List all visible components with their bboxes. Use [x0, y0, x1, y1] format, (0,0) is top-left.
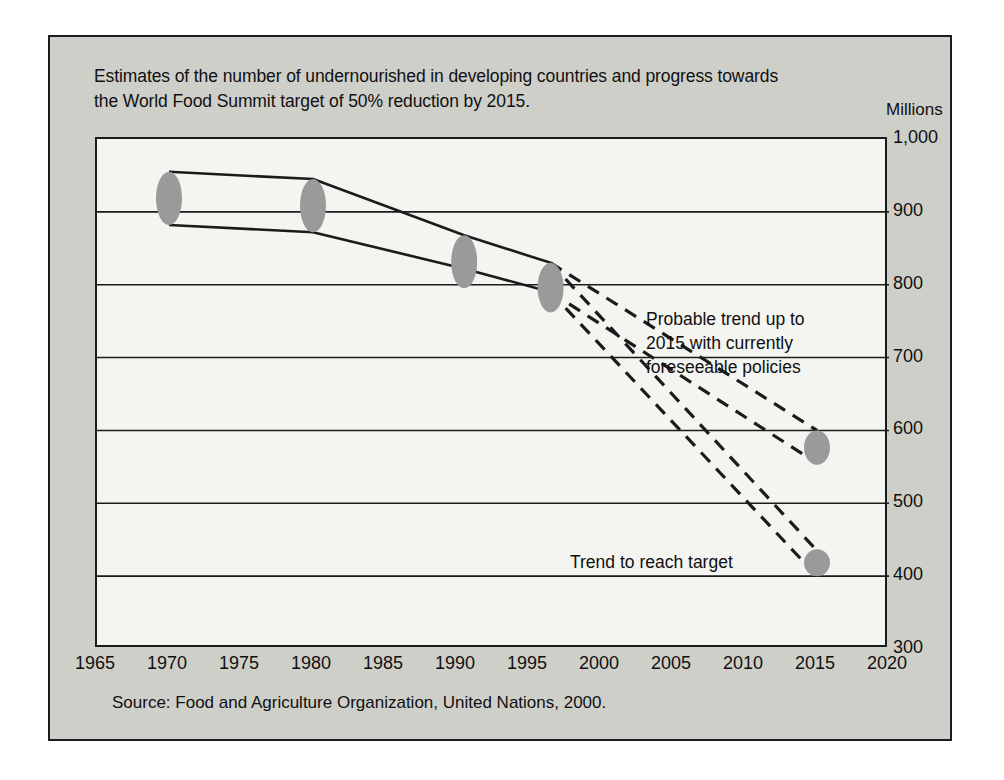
annotation-target-line-1: Trend to reach target [570, 550, 733, 574]
source-note: Source: Food and Agriculture Organizatio… [112, 693, 606, 713]
x-tick-1990: 1990 [435, 653, 475, 674]
marker-target-2015 [804, 549, 830, 576]
marker-probable-2015 [804, 430, 830, 464]
chart-page: Estimates of the number of undernourishe… [0, 0, 1004, 780]
estimate-band-lines [169, 172, 551, 292]
annotation-trend-to-target: Trend to reach target [570, 550, 733, 574]
x-tick-1980: 1980 [291, 653, 331, 674]
x-tick-1965: 1965 [75, 653, 115, 674]
x-tick-2005: 2005 [651, 653, 691, 674]
marker-estimate-1970 [156, 172, 182, 225]
chart-title: Estimates of the number of undernourishe… [94, 64, 894, 114]
chart-title-line-1: Estimates of the number of undernourishe… [94, 64, 894, 89]
annotation-probable-line-1: Probable trend up to [646, 307, 805, 331]
plot-graphics [97, 139, 889, 649]
y-tick-800: 800 [893, 272, 923, 293]
marker-estimate-1996 [538, 263, 564, 313]
x-tick-2010: 2010 [723, 653, 763, 674]
y-tick-400: 400 [893, 564, 923, 585]
y-tick-700: 700 [893, 345, 923, 366]
annotation-probable-trend: Probable trend up to 2015 with currently… [646, 307, 805, 379]
marker-estimate-1990 [451, 235, 477, 288]
annotation-probable-line-3: foreseeable policies [646, 355, 805, 379]
y-tick-600: 600 [893, 418, 923, 439]
chart-title-line-2: the World Food Summit target of 50% redu… [94, 89, 894, 114]
series-line [169, 172, 551, 263]
x-tick-2020: 2020 [867, 653, 907, 674]
x-tick-2015: 2015 [795, 653, 835, 674]
plot-area [95, 137, 887, 647]
annotation-probable-line-2: 2015 with currently [646, 331, 805, 355]
y-tick-1000: 1,000 [893, 127, 938, 148]
y-tick-500: 500 [893, 491, 923, 512]
gridlines [97, 212, 889, 576]
x-tick-1985: 1985 [363, 653, 403, 674]
chart-panel: Estimates of the number of undernourishe… [48, 35, 952, 741]
x-tick-2000: 2000 [579, 653, 619, 674]
marker-estimate-1980 [300, 179, 326, 232]
x-tick-1975: 1975 [219, 653, 259, 674]
series-line [169, 225, 551, 292]
y-tick-900: 900 [893, 199, 923, 220]
x-tick-1995: 1995 [507, 653, 547, 674]
y-axis-unit-label: Millions [886, 100, 943, 120]
x-tick-1970: 1970 [147, 653, 187, 674]
